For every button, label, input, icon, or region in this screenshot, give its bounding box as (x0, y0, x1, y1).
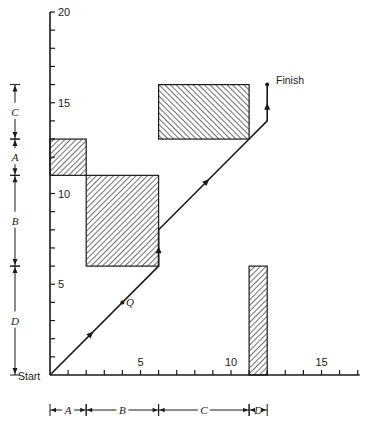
blocked-region-d (249, 266, 267, 375)
arrow-right-icon (80, 408, 85, 412)
y-bracket-label: A (11, 151, 19, 163)
arrow-right-icon (243, 408, 248, 412)
arrow-up-icon (13, 176, 18, 182)
x-tick-label: 5 (137, 356, 143, 368)
y-tick-label: 10 (58, 188, 70, 200)
arrow-down-icon (13, 132, 18, 138)
path-arrow-icon (264, 103, 270, 110)
start-label: Start (18, 370, 40, 382)
arrow-up-icon (13, 267, 18, 273)
x-bracket-label: A (64, 404, 72, 416)
arrow-left-icon (51, 408, 56, 412)
arrow-down-icon (13, 168, 18, 174)
blocked-region-a (50, 139, 86, 175)
arrow-up-icon (13, 86, 18, 92)
x-tick-label: 15 (315, 356, 327, 368)
x-tick-label: 10 (225, 356, 237, 368)
y-bracket-label: C (11, 106, 19, 118)
arrow-down-icon (13, 259, 18, 265)
finish-marker (265, 83, 269, 87)
point-q-label: Q (126, 296, 134, 308)
y-tick-label: 20 (58, 6, 70, 18)
arrow-left-icon (160, 408, 165, 412)
x-bracket-label: C (200, 404, 208, 416)
schedule-diagram: 510152051015 DBACABCD Start Finish Q (0, 0, 369, 430)
y-tick-label: 15 (58, 97, 70, 109)
arrow-up-icon (13, 140, 18, 146)
blocked-region-c (159, 85, 250, 139)
arrow-left-icon (87, 408, 92, 412)
y-tick-label: 5 (58, 278, 64, 290)
y-bracket-label: D (10, 315, 19, 327)
point-q-marker (120, 300, 124, 304)
finish-label: Finish (276, 74, 304, 86)
blocked-region-b (86, 175, 158, 266)
y-bracket-label: B (12, 215, 19, 227)
x-bracket-label: D (253, 404, 262, 416)
x-bracket-label: B (119, 404, 126, 416)
arrow-down-icon (13, 368, 18, 374)
arrow-right-icon (153, 408, 158, 412)
